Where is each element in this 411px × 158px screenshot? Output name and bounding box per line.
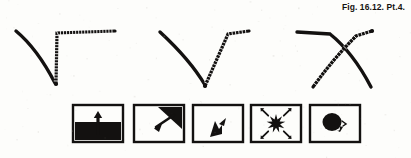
- arrow-head: [94, 111, 102, 118]
- arrow-shaft: [156, 115, 174, 127]
- tail-arrow: [342, 121, 346, 126]
- panel-blob-with-tail[interactable]: [310, 105, 360, 142]
- smooth-curve-stroke: [16, 31, 55, 83]
- ticked-path-stroke: [313, 31, 372, 87]
- panel-artwork: [323, 113, 347, 132]
- scan-speckle: [146, 7, 147, 8]
- blob-shape: [323, 113, 342, 131]
- ticked-path-stroke: [56, 31, 115, 84]
- panel-corner-wedge-arrow[interactable]: [134, 105, 184, 142]
- curve-diagram-2: [160, 29, 249, 88]
- path-endpoint: [54, 82, 58, 86]
- panel-starburst-radiating-arrows[interactable]: [251, 105, 301, 142]
- path-endpoint: [203, 84, 207, 88]
- icon-panel-row: [0, 100, 411, 150]
- panel-artwork: [75, 111, 121, 140]
- scan-speckle: [47, 94, 48, 95]
- scan-speckle: [73, 95, 74, 96]
- smooth-curve-stroke: [160, 32, 205, 85]
- figure-plate: Fig. 16.12. Pt.4.: [0, 0, 411, 158]
- radiating-arrow-shaft: [263, 131, 269, 137]
- scan-speckle: [134, 96, 136, 98]
- scan-speckle: [326, 157, 327, 158]
- panel-artwork: [260, 108, 291, 139]
- panel-artwork: [210, 118, 226, 137]
- radiating-arrow-shaft: [284, 131, 290, 137]
- radiating-arrow-shaft: [284, 110, 290, 116]
- curve-diagram-row: [0, 14, 411, 94]
- curve-diagram-canvas: [0, 14, 411, 94]
- path-endpoint: [370, 29, 374, 33]
- curve-diagram-1: [16, 29, 115, 86]
- scan-speckle: [250, 1, 252, 2]
- arrow-shaft: [96, 117, 99, 135]
- starburst-shape: [267, 114, 286, 132]
- scan-speckle: [261, 10, 262, 11]
- panel-artwork: [154, 107, 182, 132]
- scan-speckle: [18, 4, 19, 5]
- scan-speckle: [117, 9, 119, 10]
- panel-upward-arrow-over-ground[interactable]: [73, 105, 123, 142]
- scan-speckle: [125, 150, 126, 151]
- figure-caption: Fig. 16.12. Pt.4.: [342, 2, 405, 12]
- scan-speckle: [317, 6, 318, 8]
- scan-speckle: [298, 8, 299, 10]
- panel-small-spike-arrow[interactable]: [193, 105, 243, 142]
- curve-diagram-3: [297, 29, 374, 87]
- panel-border: [193, 105, 243, 142]
- scan-speckle: [8, 0, 9, 1]
- icon-panel-canvas: [0, 100, 411, 150]
- scan-speckle: [214, 9, 215, 10]
- scan-speckle: [50, 94, 51, 95]
- arrow-head: [219, 118, 226, 126]
- ticked-path-stroke: [205, 31, 249, 86]
- radiating-arrow-shaft: [263, 110, 269, 116]
- scan-speckle: [263, 95, 264, 96]
